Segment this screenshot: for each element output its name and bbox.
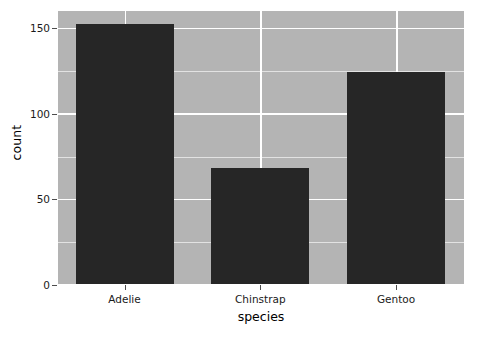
y-tick-mark-0 <box>52 285 57 286</box>
x-tick-mark-adelie <box>125 285 126 290</box>
y-tick-label-100: 100 <box>22 108 50 120</box>
bar-adelie <box>76 24 174 284</box>
x-axis-title: species <box>58 309 464 324</box>
y-tick-mark-50 <box>52 199 57 200</box>
x-tick-mark-chinstrap <box>260 285 261 290</box>
x-tick-label-chinstrap: Chinstrap <box>235 293 286 305</box>
x-tick-label-adelie: Adelie <box>108 293 140 305</box>
bar-gentoo <box>347 72 445 284</box>
bar-chinstrap <box>211 168 309 284</box>
bar-chart-figure: count 0 50 100 150 Adelie Chinstra <box>0 0 480 339</box>
y-tick-mark-150 <box>52 28 57 29</box>
y-axis-tick-labels: 0 50 100 150 <box>22 0 50 339</box>
x-tick-mark-gentoo <box>396 285 397 290</box>
y-tick-label-50: 50 <box>22 193 50 205</box>
y-tick-mark-100 <box>52 114 57 115</box>
plot-panel <box>58 11 464 285</box>
x-tick-label-gentoo: Gentoo <box>377 293 415 305</box>
y-tick-label-0: 0 <box>22 279 50 291</box>
y-tick-label-150: 150 <box>22 22 50 34</box>
